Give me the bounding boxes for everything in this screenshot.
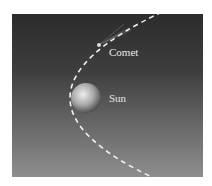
sun-icon <box>71 83 101 113</box>
diagram-panel: Comet Sun <box>12 14 203 177</box>
orbit-diagram <box>12 14 203 177</box>
sun-label: Sun <box>109 93 126 104</box>
comet-icon <box>97 43 101 47</box>
comet-label: Comet <box>109 47 138 58</box>
comet-tail <box>99 26 133 45</box>
